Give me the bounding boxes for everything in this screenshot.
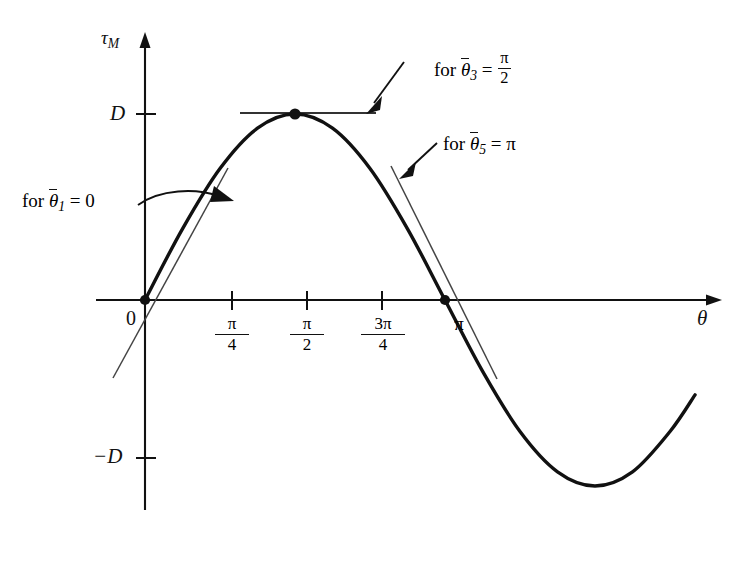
annotation-theta-3-symbol: θ	[461, 59, 470, 80]
annotation-theta-3-equals: =	[482, 59, 493, 80]
x-tick-label-pi: π	[447, 314, 471, 334]
annotation-theta-1-subscript: 1	[58, 199, 65, 214]
overbar-icon	[49, 189, 57, 190]
x-axis-arrowhead	[706, 295, 722, 306]
y-axis-label-subscript: M	[108, 36, 119, 51]
annotation-theta-1: for θ1 = 0	[22, 190, 95, 215]
overbar-icon	[461, 58, 469, 59]
annotation-theta-1-variable: θ	[49, 190, 58, 212]
annotation-theta-5-value: π	[506, 133, 516, 154]
x-tick-three-pi-over-4-denominator: 4	[361, 335, 405, 354]
y-tick-label-negative-d: −D	[93, 446, 122, 467]
annotation-theta-5-subscript: 5	[479, 142, 486, 157]
sine-torque-figure	[0, 0, 742, 567]
tick-marks-group	[136, 114, 382, 458]
annotation-arrows-group	[138, 62, 437, 205]
x-tick-label-pi-over-2: π 2	[290, 315, 324, 354]
x-tick-pi-symbol: π	[454, 313, 464, 334]
annotation-theta-3: for θ3 = π 2	[434, 50, 512, 86]
arrow-straight-theta-5-head	[399, 162, 416, 179]
annotation-theta-1-prefix: for	[22, 190, 44, 211]
x-tick-pi-over-2-denominator: 2	[290, 335, 324, 354]
x-tick-pi-over-4-denominator: 4	[215, 335, 249, 354]
annotation-theta-3-subscript: 3	[470, 68, 477, 83]
annotation-theta-3-denominator: 2	[498, 69, 510, 87]
x-tick-label-pi-over-4: π 4	[215, 315, 249, 354]
x-tick-pi-over-2-numerator: π	[290, 315, 324, 335]
marker-point-theta-1	[140, 295, 150, 305]
curve-point-markers	[140, 108, 450, 305]
axes-group	[96, 32, 722, 510]
arrow-straight-theta-3-head	[366, 96, 382, 114]
annotation-theta-5-symbol: θ	[470, 133, 479, 154]
x-tick-pi-over-4-numerator: π	[215, 315, 249, 335]
arrow-curved-theta-1-head	[210, 186, 234, 202]
annotation-theta-3-prefix: for	[434, 59, 456, 80]
overbar-icon	[470, 132, 478, 133]
marker-point-theta-5	[440, 295, 450, 305]
y-axis-label-symbol: τ	[101, 27, 108, 48]
y-axis-label: τM	[101, 28, 119, 51]
annotation-theta-5-variable: θ	[470, 133, 479, 155]
x-tick-three-pi-over-4-numerator: 3π	[361, 315, 405, 335]
annotation-theta-5: for θ5 = π	[443, 133, 516, 158]
y-tick-label-d: D	[110, 103, 125, 124]
marker-point-theta-3	[289, 108, 300, 119]
x-tick-label-three-pi-over-4: 3π 4	[361, 315, 405, 354]
annotation-theta-1-value: 0	[85, 190, 95, 211]
annotation-theta-5-equals: =	[491, 133, 502, 154]
annotation-theta-3-value-fraction: π 2	[498, 50, 510, 86]
y-axis-arrowhead	[140, 32, 151, 48]
annotation-theta-1-equals: =	[70, 190, 81, 211]
arrow-straight-theta-3	[374, 62, 404, 103]
annotation-theta-5-prefix: for	[443, 133, 465, 154]
arrow-curved-theta-1	[138, 191, 218, 205]
annotation-theta-3-numerator: π	[498, 50, 510, 69]
origin-label: 0	[126, 308, 136, 328]
annotation-theta-1-symbol: θ	[49, 190, 58, 211]
x-axis-label: θ	[697, 308, 707, 329]
annotation-theta-3-variable: θ	[461, 59, 470, 81]
tangent-at-pi-line	[391, 166, 497, 379]
